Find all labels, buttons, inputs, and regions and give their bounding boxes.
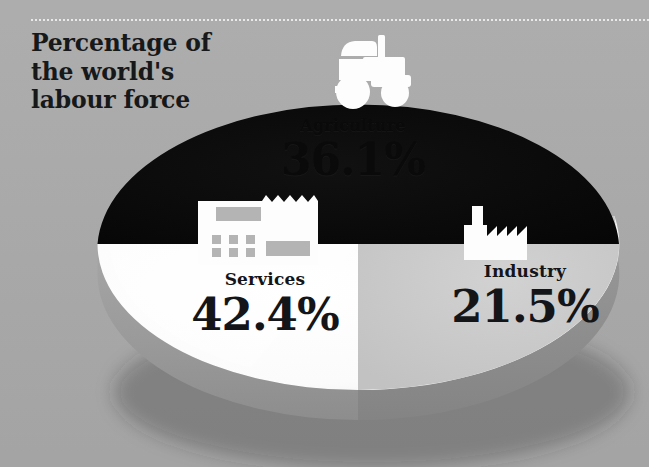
slice-label-agriculture-name: Agriculture (238, 118, 468, 134)
infographic-page: Percentage of the world's labour force (0, 0, 649, 467)
office-building-icon (196, 193, 320, 273)
page-title: Percentage of the world's labour force (31, 29, 331, 115)
slice-label-services-value: 42.4% (150, 291, 380, 338)
slice-label-services: Services 42.4% (150, 271, 380, 338)
slice-label-industry-value: 21.5% (432, 283, 618, 330)
tractor-icon (325, 31, 421, 115)
factory-icon (460, 206, 534, 266)
slice-label-agriculture: Agriculture 36.1% (238, 118, 468, 183)
slice-label-agriculture-value: 36.1% (238, 137, 468, 183)
slice-label-industry: Industry 21.5% (432, 263, 618, 330)
slice-label-services-name: Services (150, 271, 380, 288)
